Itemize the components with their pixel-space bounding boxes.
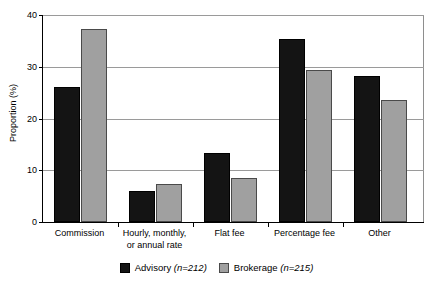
bar-advisory-commission (54, 87, 80, 222)
legend-label-advisory-name: Advisory (135, 262, 171, 273)
x-category-label-hourly: Hourly, monthly, or annual rate (117, 228, 192, 251)
bar-brokerage-flat-fee (231, 178, 257, 222)
bar-group-hourly (118, 15, 193, 222)
bar-group-commission (43, 15, 118, 222)
legend-label-brokerage-name: Brokerage (234, 262, 278, 273)
bar-advisory-percentage-fee (279, 39, 305, 222)
x-category-label-commission: Commission (42, 228, 117, 240)
legend-swatch-brokerage-icon (219, 263, 229, 273)
bar-group-other (343, 15, 418, 222)
x-tick-mark-1 (118, 222, 119, 227)
y-tick-label-10: 10 (27, 166, 37, 175)
bar-advisory-flat-fee (204, 153, 230, 222)
legend-label-brokerage-n: (n=215) (280, 262, 313, 273)
legend-entry-brokerage: Brokerage (n=215) (219, 262, 314, 273)
bar-advisory-hourly (129, 191, 155, 222)
bar-group-percentage-fee (268, 15, 343, 222)
bar-brokerage-hourly (156, 184, 182, 222)
plot-area: 40 30 20 10 0 (42, 15, 424, 223)
y-tick-label-0: 0 (32, 218, 37, 227)
bar-chart-figure: Proportion (%) 40 30 20 10 0 (0, 0, 433, 291)
y-tick-mark-0 (39, 222, 43, 223)
legend-swatch-advisory-icon (120, 263, 130, 273)
x-category-label-other: Other (342, 228, 417, 240)
bar-brokerage-percentage-fee (306, 70, 332, 222)
x-category-label-percentage-fee: Percentage fee (267, 228, 342, 240)
legend-label-brokerage: Brokerage (n=215) (234, 262, 314, 273)
legend-label-advisory: Advisory (n=212) (135, 262, 207, 273)
chart-legend: Advisory (n=212) Brokerage (n=215) (0, 262, 433, 273)
x-tick-mark-2 (193, 222, 194, 227)
bar-advisory-other (354, 76, 380, 222)
bar-group-flat-fee (193, 15, 268, 222)
y-tick-label-20: 20 (27, 114, 37, 123)
bar-brokerage-other (381, 100, 407, 222)
x-tick-mark-4 (343, 222, 344, 227)
y-tick-label-40: 40 (27, 11, 37, 20)
legend-entry-advisory: Advisory (n=212) (120, 262, 207, 273)
x-tick-mark-3 (268, 222, 269, 227)
bar-brokerage-commission (81, 29, 107, 222)
y-tick-label-30: 30 (27, 62, 37, 71)
x-category-label-flat-fee: Flat fee (192, 228, 267, 240)
y-axis-title: Proportion (%) (8, 53, 18, 173)
legend-label-advisory-n: (n=212) (174, 262, 207, 273)
